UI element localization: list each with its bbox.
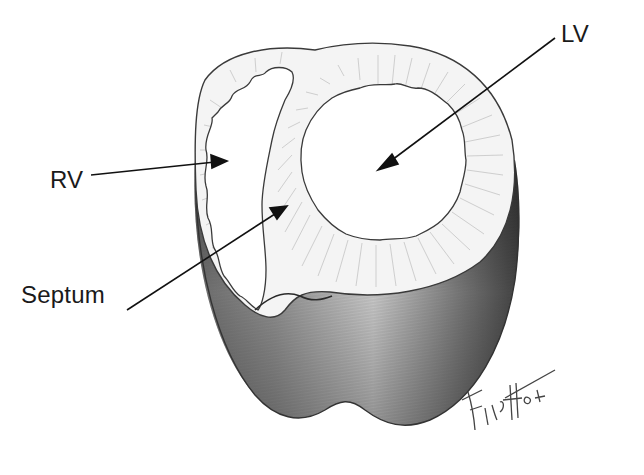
lv-cavity: [301, 84, 466, 240]
label-lv: LV: [561, 22, 589, 46]
label-septum: Septum: [21, 283, 105, 307]
heart-diagram: LV RV Septum: [0, 0, 644, 475]
label-rv: RV: [50, 168, 83, 192]
heart-illustration: [0, 0, 644, 475]
